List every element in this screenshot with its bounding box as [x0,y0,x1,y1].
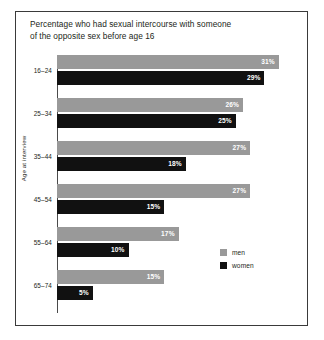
category-label: 25–34 [6,110,52,117]
bar-men: 17% [57,227,179,241]
bar-value-men: 27% [233,145,247,152]
bar-women: 29% [57,71,264,85]
bar-men: 31% [57,55,279,69]
bar-women: 18% [57,157,186,171]
legend-swatch-women-icon [220,262,227,269]
bar-value-women: 29% [247,75,261,82]
legend-item-men: men [220,246,254,259]
legend-item-women: women [220,259,254,272]
bar-value-women: 18% [168,161,182,168]
chart-title-line-2: of the opposite sex before age 16 [30,31,280,43]
bar-value-women: 10% [111,247,125,254]
bar-value-women: 25% [218,118,232,125]
bar-group: 26% 25% [57,98,287,132]
category-label: 55–64 [6,239,52,246]
bar-group: 27% 18% [57,141,287,175]
chart-title: Percentage who had sexual intercourse wi… [30,19,280,42]
bar-women: 10% [57,243,129,257]
bar-men: 27% [57,141,250,155]
bar-men: 27% [57,184,250,198]
category-label: 45–54 [6,196,52,203]
bar-value-men: 15% [147,274,161,281]
bar-men: 15% [57,270,164,284]
bar-women: 25% [57,114,236,128]
chart-title-line-1: Percentage who had sexual intercourse wi… [30,19,280,31]
category-label: 16–24 [6,67,52,74]
chart-figure: Percentage who had sexual intercourse wi… [0,0,324,340]
bar-women: 15% [57,200,164,214]
chart-legend: men women [220,246,254,272]
legend-label-women: women [232,262,254,269]
category-label: 35–44 [6,153,52,160]
bar-group: 31% 29% [57,55,287,89]
bar-value-women: 5% [79,290,89,297]
legend-label-men: men [232,249,245,256]
plot-area: 31% 29% 26% 25% 27% 18% [57,55,287,313]
bar-women: 5% [57,286,93,300]
bar-value-men: 27% [233,188,247,195]
category-label: 65–74 [6,282,52,289]
bar-value-men: 26% [225,102,239,109]
legend-swatch-men-icon [220,249,227,256]
bar-value-women: 15% [147,204,161,211]
bar-men: 26% [57,98,243,112]
bar-value-men: 17% [161,231,175,238]
bar-group: 27% 15% [57,184,287,218]
bar-group: 15% 5% [57,270,287,304]
bar-value-men: 31% [261,59,275,66]
